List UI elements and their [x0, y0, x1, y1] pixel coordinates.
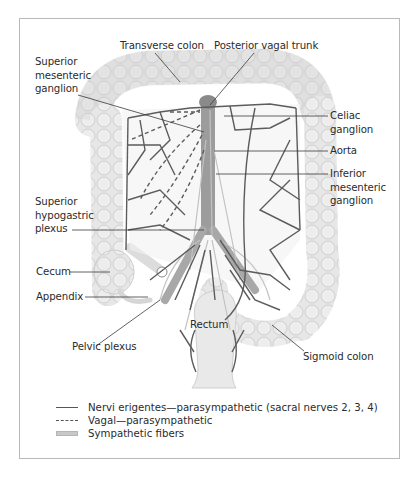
band-swatch-icon — [56, 431, 78, 436]
label-posterior-vagal-trunk: Posterior vagal trunk — [214, 39, 318, 53]
label-sigmoid-colon: Sigmoid colon — [303, 350, 374, 364]
legend-label: Nervi erigentes—parasympathetic (sacral … — [88, 402, 378, 413]
label-superior-mesenteric-ganglion: Superior mesenteric ganglion — [35, 55, 91, 96]
legend-item-vagal: Vagal—parasympathetic — [56, 414, 378, 427]
legend-item-sympathetic: Sympathetic fibers — [56, 427, 378, 440]
label-inferior-mesenteric-ganglion: Inferior mesenteric ganglion — [330, 167, 386, 208]
label-pelvic-plexus: Pelvic plexus — [72, 340, 136, 354]
label-superior-hypogastric-plexus: Superior hypogastric plexus — [35, 195, 94, 236]
label-cecum: Cecum — [36, 265, 71, 279]
legend: Nervi erigentes—parasympathetic (sacral … — [56, 401, 378, 440]
label-transverse-colon: Transverse colon — [120, 39, 204, 53]
legend-label: Sympathetic fibers — [88, 428, 184, 439]
dashed-line-icon — [56, 418, 78, 424]
solid-line-icon — [56, 405, 78, 411]
legend-label: Vagal—parasympathetic — [88, 415, 212, 426]
label-celiac-ganglion: Celiac ganglion — [330, 109, 373, 136]
label-rectum: Rectum — [190, 318, 228, 332]
label-aorta: Aorta — [330, 144, 357, 158]
legend-item-nervi-erigentes: Nervi erigentes—parasympathetic (sacral … — [56, 401, 378, 414]
label-appendix: Appendix — [36, 290, 83, 304]
